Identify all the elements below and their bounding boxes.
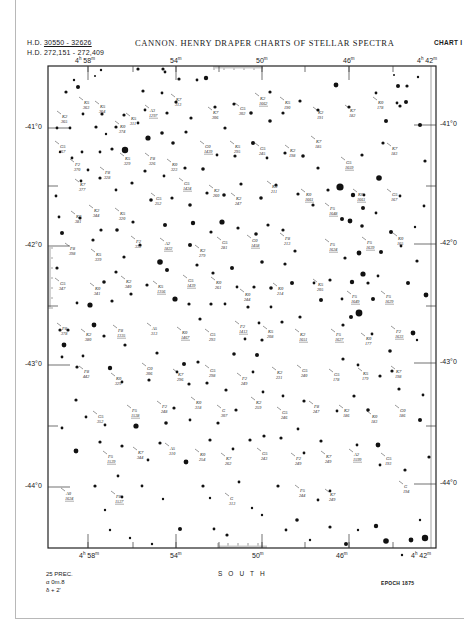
star-dot: [58, 216, 61, 219]
star-dot: [246, 305, 249, 308]
ra-tick-label-top: 54m: [170, 56, 182, 64]
star-dot: [316, 108, 319, 111]
star-dot: [157, 259, 163, 265]
star-dot: [225, 533, 228, 536]
spectral-label: K7262: [221, 453, 232, 466]
spectral-label: F51649: [347, 291, 360, 304]
star-dot: [268, 119, 272, 123]
star-chart: K5363K2365K5364K0374K5311A31297K7313K730…: [0, 0, 464, 635]
star-dot: [357, 529, 359, 531]
svg-text:178: 178: [377, 105, 384, 110]
svg-text:260: 260: [213, 193, 220, 198]
spectral-label: F2249: [237, 373, 248, 386]
star-dot: [376, 443, 381, 448]
star-dot: [383, 538, 389, 544]
star-dot: [348, 219, 353, 224]
svg-text:1627: 1627: [335, 337, 344, 342]
svg-text:247: 247: [235, 201, 242, 206]
star-dot: [349, 315, 353, 319]
star-dot: [195, 263, 198, 266]
star-dot: [141, 485, 144, 488]
star-dot: [248, 438, 251, 441]
star-dot: [260, 338, 263, 341]
spectral-label: K2259: [251, 397, 262, 410]
star-dot: [236, 226, 239, 229]
star-dot: [234, 408, 237, 411]
spectral-label: G5246: [277, 407, 288, 420]
svg-text:295: 295: [234, 149, 240, 154]
star-dot: [213, 105, 216, 108]
note-line: α 0m.8: [46, 578, 73, 586]
star-dot: [196, 360, 199, 363]
spectral-label: F51629: [381, 291, 394, 304]
star-dot: [110, 147, 113, 150]
spectral-label: F8398: [65, 243, 76, 256]
spectral-label: K2186: [339, 405, 350, 418]
star-dot: [416, 339, 418, 341]
svg-text:247: 247: [313, 409, 320, 414]
svg-text:1661: 1661: [305, 197, 313, 202]
spectral-label: K21662: [255, 93, 268, 106]
svg-text:306: 306: [146, 371, 153, 376]
star-dot: [133, 423, 138, 428]
dec-tick-label-left: -41°0: [25, 123, 42, 130]
star-dot: [251, 141, 255, 145]
svg-text:248: 248: [161, 409, 168, 414]
star-dot: [222, 193, 226, 197]
svg-text:370: 370: [74, 167, 81, 172]
svg-text:1648: 1648: [329, 211, 338, 216]
svg-text:311: 311: [130, 121, 136, 126]
star-dot: [293, 249, 296, 252]
star-dot: [115, 228, 119, 232]
spectral-label: F51538: [127, 405, 140, 418]
star-dot: [336, 183, 343, 190]
star-dot: [73, 79, 75, 81]
spectral-label: K7185: [311, 136, 322, 149]
star-dot: [281, 228, 284, 231]
star-dot: [147, 378, 150, 381]
star-dot: [269, 286, 273, 290]
star-dot: [259, 196, 263, 200]
spectral-label: K5364: [95, 101, 106, 114]
star-dot: [55, 195, 58, 198]
star-dot: [232, 448, 235, 451]
star-dot: [270, 306, 273, 309]
svg-text:1624: 1624: [65, 496, 73, 501]
star-dot: [262, 434, 265, 437]
star-dot: [274, 183, 277, 186]
ra-tick-label-bottom: 4h 42m: [411, 551, 431, 559]
spectral-label: K7296: [173, 369, 184, 382]
ra-tick-label-bottom: 50m: [252, 551, 264, 559]
star-dot: [74, 398, 77, 401]
svg-text:1424: 1424: [183, 186, 191, 191]
star-dot: [87, 169, 90, 172]
svg-text:1467: 1467: [181, 335, 190, 340]
star-dot: [297, 428, 300, 431]
dec-tick-label-left: -43°0: [25, 360, 42, 367]
star-dot: [252, 371, 255, 374]
star-dot: [244, 338, 247, 341]
spectral-label: K2380: [81, 329, 92, 342]
star-dot: [163, 175, 166, 178]
dec-tick-label-left: -44°0: [25, 482, 42, 489]
spectral-label: G5193: [381, 453, 392, 466]
star-dot: [136, 67, 139, 70]
south-direction-label: SOUTH: [218, 570, 271, 577]
star-dot: [183, 166, 186, 169]
star-dot: [82, 113, 85, 116]
spectral-label: K5311: [126, 113, 137, 126]
star-dot: [393, 74, 395, 76]
spectral-label: F2332: [131, 236, 142, 249]
svg-text:259: 259: [255, 405, 262, 410]
star-dot: [357, 251, 362, 256]
spectral-label: F2249: [291, 453, 302, 466]
star-dot: [182, 362, 186, 366]
svg-text:252: 252: [155, 201, 161, 206]
svg-text:380: 380: [85, 337, 92, 342]
star-dot: [399, 195, 402, 198]
svg-text:328: 328: [104, 175, 111, 180]
spectral-label: K7183: [387, 143, 398, 156]
spectral-label: A31297: [145, 105, 158, 118]
svg-text:186: 186: [399, 413, 406, 418]
note-line: δ + 2': [46, 586, 73, 594]
